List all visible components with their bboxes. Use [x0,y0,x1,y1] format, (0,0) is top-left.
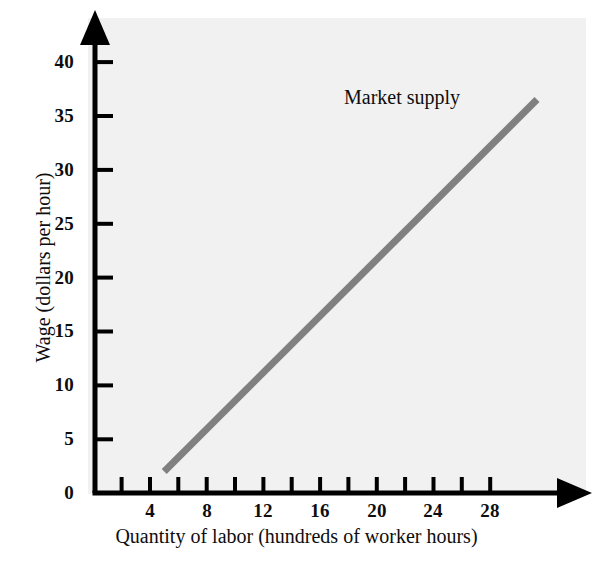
market-supply-line [164,100,537,472]
x-tick-label-12: 12 [253,500,272,522]
y-tick-label-0: 0 [34,482,74,504]
x-axis-title: Quantity of labor (hundreds of worker ho… [0,525,593,548]
plot-svg [0,0,593,570]
x-tick-label-16: 16 [310,500,329,522]
x-tick-label-28: 28 [480,500,499,522]
x-tick-label-24: 24 [423,500,442,522]
x-tick-label-20: 20 [367,500,386,522]
y-tick-label-40: 40 [34,51,74,73]
x-tick-label-8: 8 [202,500,212,522]
x-tick-label-4: 4 [145,500,155,522]
y-axis-ticks [95,62,113,439]
y-axis-title: Wage (dollars per hour) [32,88,55,448]
chart-figure: 40 35 30 25 20 15 10 5 0 4 8 12 16 20 24… [0,0,593,570]
market-supply-label: Market supply [344,86,460,109]
